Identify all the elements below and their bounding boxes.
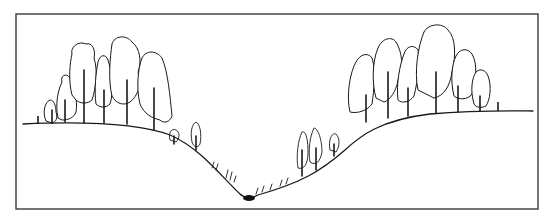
tree-right-11	[472, 70, 490, 111]
slope-shrubs-layer	[169, 122, 339, 176]
tree-crown	[348, 55, 374, 113]
trees-layer	[44, 25, 490, 130]
slope-shrub-3	[309, 128, 322, 170]
grass-tuft-0	[226, 170, 236, 182]
slope-shrub-4	[329, 134, 339, 156]
tree-right-7	[373, 39, 401, 118]
grass-tuft-2	[280, 178, 288, 186]
slope-shrub-1	[191, 122, 201, 150]
tree-left-0	[44, 100, 57, 123]
tree-crown	[44, 100, 57, 123]
tree-left-4	[110, 37, 140, 124]
tree-crown	[472, 70, 490, 107]
tree-crown	[138, 52, 172, 122]
slope-shrub-2	[297, 132, 308, 176]
stream-channel	[243, 195, 255, 201]
tree-right-6	[348, 55, 374, 122]
tree-crown	[110, 37, 140, 104]
grass-tuft-1	[256, 184, 272, 194]
valley-cross-section-figure	[0, 0, 553, 218]
tree-left-5	[138, 52, 172, 130]
terrain-profile-line	[23, 111, 533, 198]
figure-svg	[0, 0, 553, 218]
tree-right-9	[416, 25, 454, 113]
tree-crown	[70, 43, 96, 103]
